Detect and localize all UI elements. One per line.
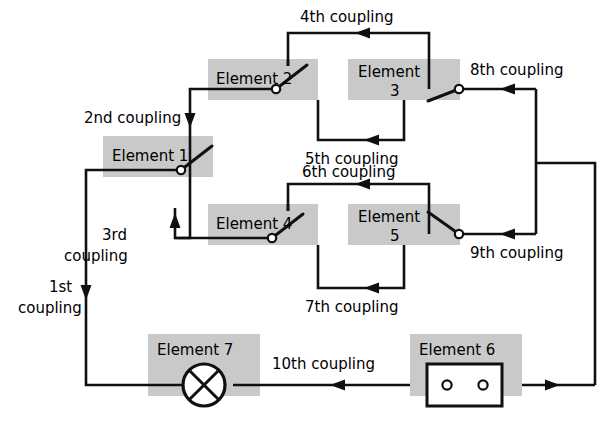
right-return-rail <box>536 163 595 385</box>
coupling-diagram: Element 1 Element 2 Element 3 Element 4 … <box>0 0 616 429</box>
element-6-terminal-block <box>427 364 502 406</box>
coupling-7-arrowhead <box>364 283 379 294</box>
coupling-5-wire <box>318 100 404 140</box>
coupling-10-arrowhead <box>330 380 345 391</box>
element-7-label: Element 7 <box>157 341 233 359</box>
element-3-label-line2: 3 <box>390 82 400 100</box>
coupling-6-label: 6th coupling <box>302 163 396 181</box>
element-3-switch-pivot[interactable] <box>455 85 463 93</box>
coupling-2-label: 2nd coupling <box>84 109 181 127</box>
coupling-9-label: 9th coupling <box>470 244 564 262</box>
coupling-10-label: 10th coupling <box>272 355 375 373</box>
coupling-3-arrowhead <box>170 213 181 228</box>
element-5-switch-pivot[interactable] <box>455 230 463 238</box>
coupling-8-arrowhead <box>500 84 515 95</box>
element-6-terminal-left[interactable] <box>442 380 451 389</box>
coupling-7-wire <box>318 245 404 288</box>
element-1-switch-pivot[interactable] <box>177 166 185 174</box>
coupling-3-label-line2: coupling <box>64 247 128 265</box>
element-6-label: Element 6 <box>419 341 495 359</box>
element-5-label-line2: 5 <box>390 227 400 245</box>
element-5-label-line1: Element <box>358 208 420 226</box>
coupling-7-label: 7th coupling <box>305 298 399 316</box>
coupling-9-arrowhead <box>500 229 515 240</box>
coupling-10-right-arrowhead <box>545 380 560 391</box>
coupling-1-label-line1: 1st <box>49 278 72 296</box>
element-6-terminal-right[interactable] <box>478 380 487 389</box>
element-4-switch-pivot[interactable] <box>268 234 276 242</box>
coupling-4-label: 4th coupling <box>300 8 394 26</box>
element-2-label: Element 2 <box>216 70 292 88</box>
coupling-1-label-line2: coupling <box>18 299 82 317</box>
element-4-label: Element 4 <box>216 215 292 233</box>
element-1-label: Element 1 <box>112 147 188 165</box>
coupling-4-arrowhead <box>355 28 370 39</box>
diagram-canvas: Element 1 Element 2 Element 3 Element 4 … <box>0 0 616 429</box>
coupling-3-wire <box>175 177 190 238</box>
coupling-8-label: 8th coupling <box>470 61 564 79</box>
coupling-1-arrowhead <box>81 285 92 300</box>
coupling-3-label-line1: 3rd <box>102 226 127 244</box>
coupling-5-arrowhead <box>364 135 379 146</box>
element-3-label-line1: Element <box>358 63 420 81</box>
coupling-2-arrowhead <box>185 113 196 128</box>
